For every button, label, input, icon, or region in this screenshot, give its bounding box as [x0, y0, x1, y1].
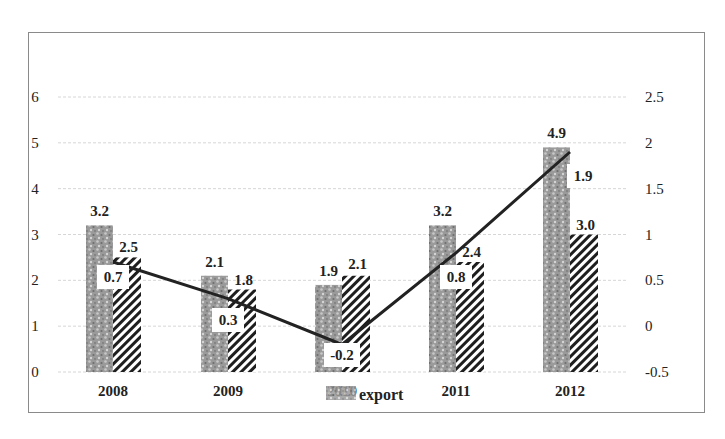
right-axis-tick: 0.5 — [645, 272, 664, 288]
x-axis-tick: 2008 — [98, 383, 128, 399]
left-axis-tick: 2 — [31, 272, 39, 288]
bar-value-label: 1.9 — [319, 263, 338, 279]
bar-speckled — [543, 147, 570, 372]
right-axis-tick: 1 — [645, 227, 653, 243]
bar-value-label: 2.1 — [348, 256, 367, 272]
bar-series — [86, 147, 598, 372]
line-value-label: -0.2 — [330, 347, 354, 363]
line-value-label: 0.8 — [447, 269, 466, 285]
left-axis-tick: 5 — [31, 135, 39, 151]
bar-value-label: 4.9 — [547, 125, 566, 141]
left-axis-tick: 4 — [31, 181, 39, 197]
x-axis-tick: 2012 — [555, 383, 585, 399]
left-y-axis: 0123456 — [31, 89, 39, 380]
bar-speckled — [429, 225, 456, 372]
x-axis-tick: 2009 — [213, 383, 243, 399]
right-axis-tick: 2.5 — [645, 89, 664, 105]
line-value-label: 0.7 — [104, 269, 123, 285]
bar-speckled — [86, 225, 113, 372]
legend: export — [326, 386, 404, 404]
left-axis-tick: 3 — [31, 227, 39, 243]
left-axis-tick: 6 — [31, 89, 39, 105]
line-value-label: 1.9 — [574, 168, 593, 184]
right-axis-tick: -0.5 — [645, 364, 669, 380]
right-axis-tick: 2 — [645, 135, 653, 151]
right-axis-tick: 0 — [645, 318, 653, 334]
bar-value-label: 2.1 — [205, 254, 224, 270]
combo-chart: 0123456 -0.500.511.522.5 3.22.52.11.81.9… — [0, 0, 725, 439]
bar-value-label: 3.2 — [90, 203, 109, 219]
left-axis-tick: 1 — [31, 318, 39, 334]
bar-value-label: 2.5 — [119, 239, 138, 255]
x-axis-tick: 2011 — [441, 383, 470, 399]
bar-value-label: 2.4 — [462, 244, 481, 260]
bar-value-label: 1.8 — [234, 272, 253, 288]
bar-value-label: 3.0 — [576, 217, 595, 233]
bar-value-label: 3.2 — [433, 203, 452, 219]
left-axis-tick: 0 — [31, 364, 39, 380]
legend-swatch — [326, 386, 356, 400]
right-y-axis: -0.500.511.522.5 — [645, 89, 669, 380]
bar-export — [570, 235, 598, 373]
right-axis-tick: 1.5 — [645, 181, 664, 197]
legend-label-export: export — [359, 386, 404, 404]
line-value-label: 0.3 — [219, 312, 238, 328]
